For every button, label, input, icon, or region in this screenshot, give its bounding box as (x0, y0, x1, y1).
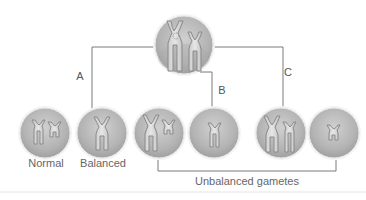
gamete-balanced (75, 106, 129, 160)
gamete-unbalanced-b1 (132, 106, 186, 160)
gamete-label-balanced: Balanced (80, 157, 126, 169)
path-label-b: B (218, 84, 225, 96)
gamete-label-normal: Normal (28, 157, 63, 169)
gamete-unbalanced-b2 (187, 106, 241, 160)
path-label-a: A (76, 70, 83, 82)
translocation-diagram (0, 0, 366, 200)
path-c-line (214, 47, 283, 117)
unbalanced-bracket (158, 160, 336, 171)
gamete-normal (18, 106, 72, 160)
gamete-unbalanced-c2 (307, 106, 361, 160)
gamete-unbalanced-c1 (254, 106, 308, 160)
parent-cell (153, 14, 215, 76)
path-label-c: C (284, 66, 292, 78)
unbalanced-gametes-label: Unbalanced gametes (195, 175, 299, 187)
